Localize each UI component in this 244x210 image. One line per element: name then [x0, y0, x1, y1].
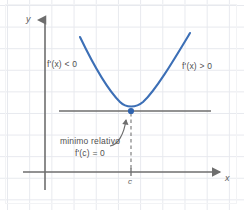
- right-derivative-annotation: f'(x) > 0: [182, 61, 212, 71]
- plot-canvas: [0, 0, 244, 210]
- critical-point-dot: [128, 108, 134, 114]
- relative-minimum-note: minimo relativo f'(c) = 0: [42, 136, 138, 158]
- figure-container: y x c f'(x) < 0 f'(x) > 0 minimo relativ…: [0, 0, 244, 210]
- x-axis-tick-label-c: c: [128, 177, 132, 186]
- parabola-curve: [80, 33, 190, 107]
- relative-minimum-note-line2: f'(c) = 0: [42, 148, 138, 158]
- left-derivative-annotation: f'(x) < 0: [47, 59, 77, 69]
- y-axis-label: y: [26, 14, 31, 24]
- relative-minimum-note-line1: minimo relativo: [42, 136, 138, 146]
- x-axis-label: x: [225, 173, 230, 183]
